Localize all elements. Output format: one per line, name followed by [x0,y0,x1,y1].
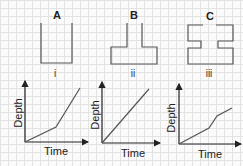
diagram-canvas: A B C i ii iii Depth Time Depth Time Dep… [0,0,243,166]
graph-i-xlabel: Time [44,146,68,157]
graph-iii [179,84,241,144]
container-b-shape [111,23,157,64]
container-c-label: C [206,11,214,22]
container-a-shape [41,23,72,63]
container-c-shape [188,25,233,64]
graph-i [25,81,88,142]
diagram-drawing [0,0,243,166]
numeral-ii: ii [131,69,135,79]
container-a-label: A [53,10,61,21]
graph-i-ylabel: Depth [13,98,24,127]
graph-ii-ylabel: Depth [90,100,101,129]
graph-ii [102,82,160,143]
graph-iii-ylabel: Depth [166,103,177,132]
numeral-iii: iii [206,69,213,79]
container-b-label: B [130,10,138,21]
graph-iii-xlabel: Time [198,149,222,160]
numeral-i: i [54,69,56,79]
graph-ii-xlabel: Time [121,148,145,159]
